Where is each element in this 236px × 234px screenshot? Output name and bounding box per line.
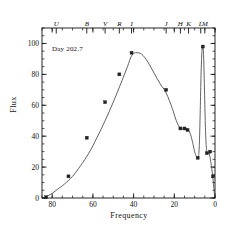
spectral-plot-figure: 806040200020406080100UBVRIJHKLM Flux Fre… (0, 0, 236, 234)
data-point (186, 129, 189, 132)
plot-frame (42, 28, 215, 198)
data-point (201, 45, 204, 48)
data-point (118, 73, 121, 76)
data-point (179, 127, 182, 130)
data-point (45, 196, 48, 199)
y-tick-label: 100 (28, 39, 40, 48)
x-tick-label: 60 (89, 200, 97, 209)
data-point (209, 150, 212, 153)
data-point (104, 101, 107, 104)
y-tick-label: 40 (32, 132, 40, 141)
x-tick-label: 40 (130, 200, 138, 209)
data-point (85, 136, 88, 139)
band-label-R: R (116, 20, 122, 28)
x-tick-label: 80 (48, 200, 56, 209)
band-label-K: K (185, 20, 191, 28)
x-axis-title: Frequency (42, 211, 216, 220)
band-label-B: B (85, 20, 90, 28)
data-point-markers (45, 45, 215, 199)
data-point (183, 127, 186, 130)
band-label-V: V (103, 20, 108, 28)
data-point (67, 175, 70, 178)
y-tick-label: 20 (32, 163, 40, 172)
data-point (165, 88, 168, 91)
day-annotation: Day 202.7 (52, 45, 83, 53)
x-tick-label: 0 (213, 200, 217, 209)
y-tick-label: 80 (32, 70, 40, 79)
data-point (205, 152, 208, 155)
data-point (196, 156, 199, 159)
band-label-J: J (165, 20, 169, 28)
plot-canvas: 806040200020406080100UBVRIJHKLM (0, 0, 236, 234)
y-axis-title: Flux (9, 85, 18, 125)
model-curve (45, 46, 215, 197)
frame-rect (42, 28, 215, 198)
band-label-U: U (54, 20, 60, 28)
band-label-I: I (129, 20, 133, 28)
y-tick-label: 0 (35, 194, 39, 203)
y-tick-label: 60 (32, 101, 40, 110)
band-label-H: H (177, 20, 184, 28)
data-point (211, 175, 214, 178)
data-point (130, 51, 133, 54)
band-label-M: M (201, 20, 209, 28)
x-tick-label: 20 (171, 200, 179, 209)
